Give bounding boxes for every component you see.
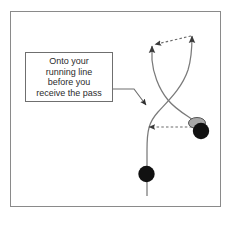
diagram-canvas xyxy=(0,0,235,227)
diagram-screenshot: Onto your running line before you receiv… xyxy=(0,0,235,227)
callout-line-4: receive the pass xyxy=(36,88,102,99)
callout-box: Onto your running line before you receiv… xyxy=(25,52,113,102)
callout-line-1: Onto your xyxy=(49,56,89,67)
player-support-runner xyxy=(138,166,154,182)
callout-pointer xyxy=(113,89,146,105)
player-ball-carrier xyxy=(193,123,209,139)
second-pass-top xyxy=(155,36,191,44)
callout-line-2: running line xyxy=(46,67,93,78)
callout-line-3: before you xyxy=(48,77,91,88)
